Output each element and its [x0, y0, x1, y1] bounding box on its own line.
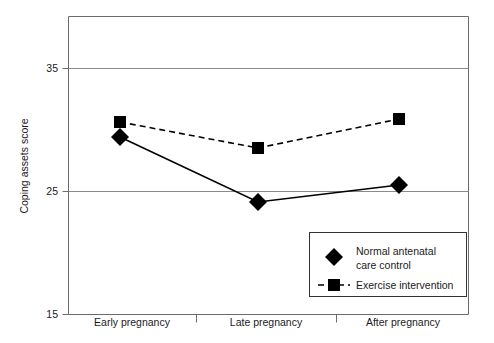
- y-tick-label-25: 25: [46, 185, 58, 197]
- square-marker: [114, 116, 126, 128]
- legend-label-normal-antenatal-line2: care control: [356, 259, 411, 271]
- chart-container: 35 25 15 Coping assets score Early pregn…: [0, 0, 494, 343]
- x-category-label-early-pregnancy: Early pregnancy: [94, 316, 171, 328]
- legend-label-normal-antenatal-line1: Normal antenatal: [356, 245, 436, 257]
- x-category-labels: Early pregnancy Late pregnancy After pre…: [94, 316, 441, 328]
- x-category-label-after-pregnancy: After pregnancy: [366, 316, 441, 328]
- legend: Normal antenatal care control Exercise i…: [310, 233, 467, 297]
- square-marker: [252, 142, 264, 154]
- y-tick-label-35: 35: [46, 62, 58, 74]
- y-tick-label-15: 15: [46, 308, 58, 320]
- line-chart: 35 25 15 Coping assets score Early pregn…: [0, 0, 494, 343]
- square-marker: [393, 113, 405, 125]
- legend-item-exercise-intervention[interactable]: Exercise intervention: [318, 279, 454, 291]
- y-axis-title: Coping assets score: [18, 118, 30, 213]
- x-category-label-late-pregnancy: Late pregnancy: [230, 316, 303, 328]
- square-marker: [328, 279, 340, 291]
- legend-label-exercise-intervention: Exercise intervention: [356, 279, 454, 291]
